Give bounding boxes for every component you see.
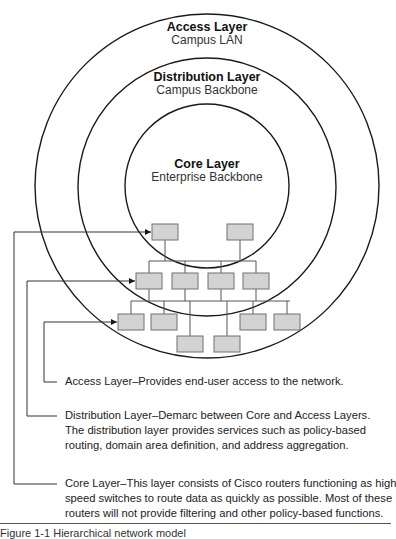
access-switch-box: [274, 314, 300, 330]
core-layer-circle: [125, 104, 289, 268]
distribution-router-box: [136, 273, 162, 289]
distribution-layer-title: Distribution Layer: [107, 70, 307, 84]
access-callout-line: [44, 322, 117, 382]
distribution-layer-subtitle: Campus Backbone: [107, 84, 307, 98]
description-line: Core Layer–This layer consists of Cisco …: [65, 476, 396, 491]
access-layer-subtitle: Campus LAN: [107, 34, 307, 48]
distribution-layer-label: Distribution Layer Campus Backbone: [107, 70, 307, 98]
core-layer-label: Core Layer Enterprise Backbone: [107, 157, 307, 185]
distribution-layer-description: Distribution Layer–Demarc between Core a…: [65, 408, 370, 453]
distribution-router-box: [172, 273, 198, 289]
description-line: routing, domain area definition, and add…: [65, 438, 370, 453]
access-switch-box: [240, 314, 266, 330]
core-router-box: [227, 224, 253, 240]
distribution-callout-line: [27, 281, 135, 416]
core-layer-subtitle: Enterprise Backbone: [107, 171, 307, 185]
distribution-router-box: [243, 273, 269, 289]
description-line: The distribution layer provides services…: [65, 423, 370, 438]
access-switch-box: [177, 336, 203, 352]
access-layer-circle: [35, 14, 379, 358]
description-line: routers will not provide filtering and o…: [65, 506, 396, 521]
access-layer-description: Access Layer–Provides end-user access to…: [65, 374, 344, 389]
core-layer-title: Core Layer: [107, 157, 307, 171]
distribution-router-box: [208, 273, 234, 289]
figure-caption: Figure 1-1 Hierarchical network model: [0, 527, 186, 539]
description-line: Distribution Layer–Demarc between Core a…: [65, 408, 370, 423]
access-layer-label: Access Layer Campus LAN: [107, 20, 307, 48]
caption-divider: [0, 523, 391, 524]
core-layer-description: Core Layer–This layer consists of Cisco …: [65, 476, 396, 521]
description-line: speed switches to route data as quickly …: [65, 491, 396, 506]
access-switch-box: [151, 314, 177, 330]
access-layer-title: Access Layer: [107, 20, 307, 34]
access-switch-box: [214, 336, 240, 352]
description-line: Access Layer–Provides end-user access to…: [65, 374, 344, 389]
core-router-box: [152, 224, 178, 240]
access-switch-box: [118, 314, 144, 330]
distribution-devices: [136, 273, 269, 289]
core-devices: [152, 224, 253, 240]
